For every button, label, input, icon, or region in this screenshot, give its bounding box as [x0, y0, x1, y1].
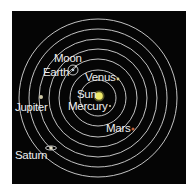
- label-moon: Moon: [54, 52, 82, 64]
- label-earth: Earth: [43, 66, 69, 78]
- label-mars: Mars: [106, 122, 131, 134]
- label-sun: Sun: [77, 88, 97, 100]
- venus-icon: [117, 78, 120, 81]
- jupiter-icon: [39, 95, 43, 99]
- mercury-icon: [109, 105, 111, 107]
- solar-system-diagram: Moon Earth Venus Sun Mercury Jupiter Mar…: [0, 0, 193, 193]
- label-venus: Venus: [85, 71, 116, 83]
- mars-icon: [132, 128, 135, 131]
- label-jupiter: Jupiter: [15, 101, 48, 113]
- saturn-icon: [49, 146, 53, 150]
- label-saturn: Saturn: [15, 149, 47, 161]
- label-mercury: Mercury: [68, 100, 108, 112]
